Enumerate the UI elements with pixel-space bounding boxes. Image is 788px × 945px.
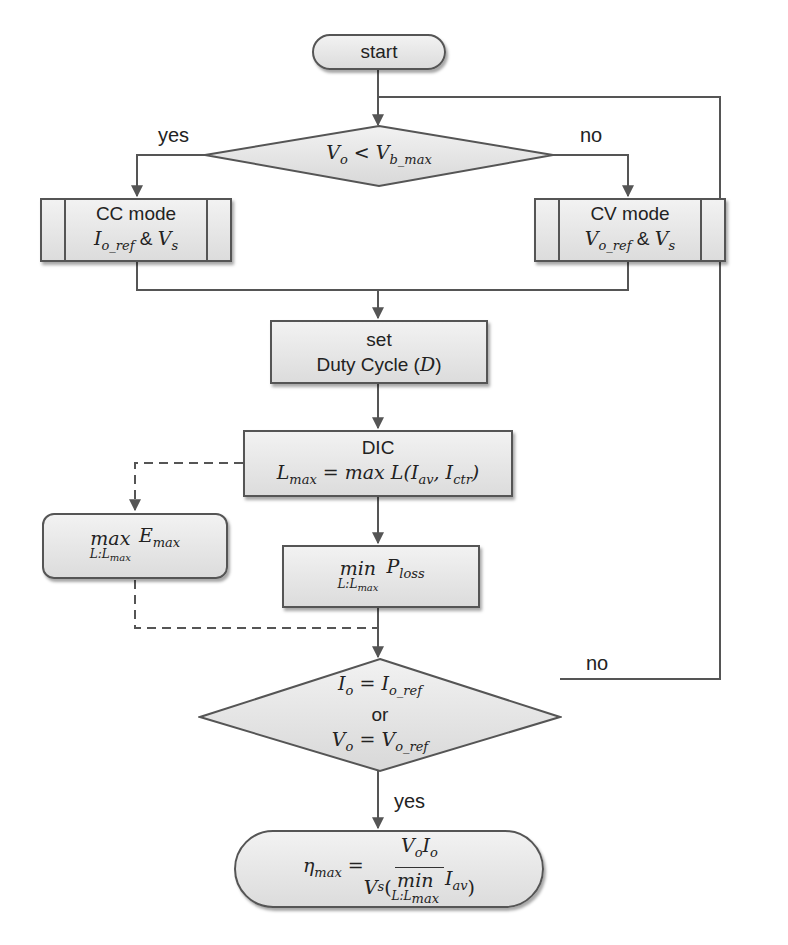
decision1-op: < [348, 141, 376, 163]
decision1-text: Vo < Vb_max [203, 124, 555, 188]
min-p-limit-sub: max [357, 583, 378, 594]
arrow-yes-to-cc [137, 155, 205, 196]
cv-mode-box: CV mode Vo_ref & Vs [534, 198, 726, 262]
decision1-lhs-sub: o [340, 152, 348, 167]
max-e-operator: max L:Lmax [90, 528, 131, 564]
d2-l1-eq: = [353, 672, 381, 694]
end-den-a-sub: s [377, 875, 384, 899]
decision1-rhs: V [376, 141, 390, 163]
dic-eq: = max L( [317, 461, 411, 483]
min-p-op: min [340, 558, 376, 578]
yes-label-2: yes [394, 790, 425, 813]
arrow-no-to-cv [552, 155, 628, 196]
dic-a-sub: av [418, 471, 433, 486]
max-e-limit-sub: max [110, 552, 131, 563]
set-duty-close: ) [435, 354, 441, 375]
d2-or: or [372, 703, 389, 727]
d2-l1-rhs: I [381, 672, 389, 694]
decision2-text: Io = Io_ref or Vo = Vo_ref [198, 657, 562, 773]
end-fraction: VoIo Vs( min L:Lmax Iav) [364, 833, 475, 905]
end-den-op: min [397, 870, 433, 890]
start-terminal: start [312, 34, 446, 70]
no-label-1: no [580, 124, 602, 147]
d2-l1-lhs: I [338, 672, 346, 694]
end-terminal: ηmax = VoIo Vs( min L:Lmax Iav) [234, 830, 544, 908]
cc-left-bar [64, 200, 66, 260]
min-p-limit: L:L [337, 577, 357, 591]
dic-lhs: L [277, 461, 290, 483]
min-p-var-sub: loss [399, 565, 424, 580]
dic-b: I [446, 461, 454, 483]
end-num-b-sub: o [430, 845, 438, 860]
cc-merge-line [137, 262, 378, 290]
cc-right-bar [206, 200, 208, 260]
max-e-var-sub: max [153, 535, 180, 550]
cv-left-bar [558, 200, 560, 260]
d2-l2-rhs-sub: o_ref [395, 739, 428, 754]
end-eq: = [342, 854, 364, 876]
end-lhs-sub: max [314, 865, 341, 880]
end-den-limit-sub: max [412, 891, 439, 906]
end-den-var-sub: av [453, 877, 468, 892]
max-e-op: max [90, 528, 130, 548]
max-e-box: max L:Lmax Emax [42, 513, 228, 579]
dic-comma: , [434, 461, 446, 483]
cv-var-sub: o_ref [599, 238, 632, 253]
dic-close: ) [472, 461, 479, 483]
set-duty-var: D [420, 353, 435, 375]
end-num-b: I [423, 834, 431, 856]
d2-l1-rhs-sub: o_ref [389, 683, 422, 698]
set-duty-line1: set [366, 328, 391, 352]
cv-mode-title: CV mode [590, 202, 669, 226]
dic-title: DIC [362, 436, 395, 460]
cc-var-sub: o_ref [101, 238, 134, 253]
d2-l2-eq: = [353, 728, 381, 750]
dic-b-sub: ctr [453, 471, 472, 486]
end-den-a: V [364, 875, 378, 899]
start-label: start [361, 40, 398, 64]
cc-mode-title: CC mode [96, 202, 176, 226]
cc-var2-sub: s [171, 238, 178, 253]
cv-merge-line [378, 262, 628, 290]
d2-l2-rhs: V [381, 728, 395, 750]
min-p-operator: min L:Lmax [337, 558, 378, 594]
dic-box: DIC Lmax = max L(Iav, Ictr) [243, 430, 513, 497]
min-p-loss-box: min L:Lmax Ploss [282, 545, 480, 608]
no-label-2: no [586, 652, 608, 675]
end-min-operator: min L:Lmax [392, 870, 439, 905]
d2-l2-lhs: V [332, 728, 346, 750]
cv-right-bar [700, 200, 702, 260]
end-den-var: I [445, 867, 453, 889]
end-lhs: η [303, 854, 314, 876]
cv-var2: V [655, 227, 669, 249]
end-num-a-sub: o [415, 845, 423, 860]
cv-amp: & [632, 228, 655, 249]
cv-var2-sub: s [669, 238, 676, 253]
decision1-lhs: V [326, 141, 340, 163]
yes-label-1: yes [158, 124, 189, 147]
max-e-limit: L:L [90, 547, 110, 561]
dic-lhs-sub: max [289, 471, 316, 486]
cv-var: V [585, 227, 599, 249]
cc-var2: V [158, 227, 172, 249]
set-duty-cycle-box: set Duty Cycle (D) [270, 320, 488, 384]
set-duty-line2: Duty Cycle ( [316, 354, 419, 375]
end-den-limit: L:L [392, 889, 412, 903]
max-e-var: E [139, 524, 153, 546]
cc-amp: & [134, 228, 157, 249]
min-p-var: P [386, 555, 399, 577]
end-num-a: V [401, 834, 415, 856]
dashed-arrow-dic-to-max-e [135, 463, 243, 510]
cc-mode-box: CC mode Io_ref & Vs [40, 198, 232, 262]
decision1-rhs-sub: b_max [390, 152, 432, 167]
